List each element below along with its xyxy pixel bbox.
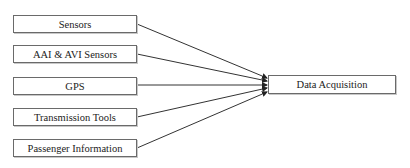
source-label: Transmission Tools — [34, 112, 116, 123]
source-label: Passenger Information — [28, 143, 123, 154]
source-label: AAI & AVI Sensors — [33, 49, 117, 60]
target-box-data-acquisition: Data Acquisition — [268, 75, 396, 94]
source-label: Sensors — [59, 19, 92, 30]
edge-sensors-to-data-acquisition — [137, 24, 267, 78]
source-box-aai-avi-sensors: AAI & AVI Sensors — [13, 45, 137, 63]
edge-passenger-information-to-data-acquisition — [137, 92, 267, 148]
source-box-passenger-information: Passenger Information — [13, 139, 137, 157]
source-box-gps: GPS — [13, 77, 137, 95]
source-box-transmission-tools: Transmission Tools — [13, 108, 137, 126]
edge-aai-avi-sensors-to-data-acquisition — [137, 54, 267, 81]
source-box-sensors: Sensors — [13, 15, 137, 33]
target-label: Data Acquisition — [297, 79, 368, 90]
source-label: GPS — [65, 81, 84, 92]
edge-transmission-tools-to-data-acquisition — [137, 88, 267, 117]
